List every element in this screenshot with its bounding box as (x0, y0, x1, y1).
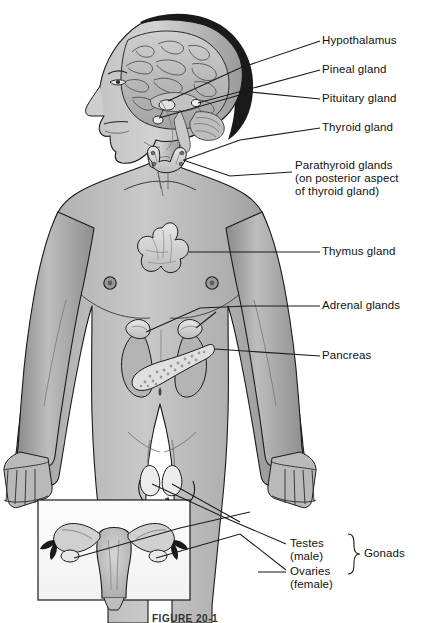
label-testes-line2: (male) (290, 550, 323, 564)
testis-left (140, 466, 160, 496)
label-gonads: Gonads (364, 547, 405, 561)
uterus (97, 528, 131, 599)
figure-container: Hypothalamus Pineal gland Pituitary glan… (0, 0, 439, 623)
figure-caption: FIGURE 20-1 (152, 613, 218, 623)
leader-parathyroid (183, 160, 292, 176)
label-adrenal-glands: Adrenal glands (322, 299, 400, 313)
head (86, 14, 254, 163)
label-pituitary-gland: Pituitary gland (322, 92, 396, 106)
label-hypothalamus: Hypothalamus (322, 34, 397, 48)
label-thyroid-gland: Thyroid gland (322, 121, 393, 135)
label-ovaries-line2: (female) (290, 578, 333, 592)
label-pancreas: Pancreas (322, 349, 371, 363)
label-thymus-gland: Thymus gland (322, 245, 395, 259)
testis-right (162, 466, 182, 496)
label-parathyroid-glands-line1: Parathyroid glands (295, 159, 393, 173)
ovary-left (61, 550, 79, 562)
label-pineal-gland: Pineal gland (322, 63, 387, 77)
gonads-bracket (348, 534, 360, 574)
label-parathyroid-glands-line3: of thyroid gland) (295, 185, 379, 199)
label-testes-line1: Testes (290, 537, 324, 551)
hand-left (4, 452, 52, 508)
nipple-left (104, 277, 116, 289)
label-parathyroid-glands-line2: (on posterior aspect (295, 172, 399, 186)
hand-right (268, 452, 316, 508)
nipple-right (206, 277, 218, 289)
pupil (116, 80, 120, 84)
label-ovaries-line1: Ovaries (290, 565, 330, 579)
